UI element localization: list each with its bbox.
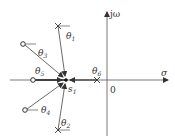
theta-1-label: θ1 (66, 31, 75, 42)
theta-2-label: θ2 (61, 118, 70, 129)
theta-4-label: θ4 (41, 105, 50, 116)
zero-4-icon (23, 108, 28, 113)
vector-p1 (58, 26, 65, 76)
jomega-label: jω (109, 9, 120, 19)
theta-6-label: θ6 (92, 66, 101, 77)
vector-lines (25, 26, 97, 130)
theta-5-label: θ5 (35, 66, 44, 77)
zero-5-icon (31, 78, 36, 83)
zero-3-icon (21, 42, 26, 47)
sigma-label: σ (161, 68, 168, 78)
test-point-s1-icon (64, 78, 68, 82)
origin-label: 0 (110, 85, 116, 95)
theta-3-label: θ3 (38, 48, 47, 59)
s1-label: s1 (68, 84, 76, 95)
poles (55, 23, 100, 133)
s-plane-diagram: θ1 θ2 θ6 θ3 θ4 θ5 s1 σ jω 0 (0, 0, 175, 139)
